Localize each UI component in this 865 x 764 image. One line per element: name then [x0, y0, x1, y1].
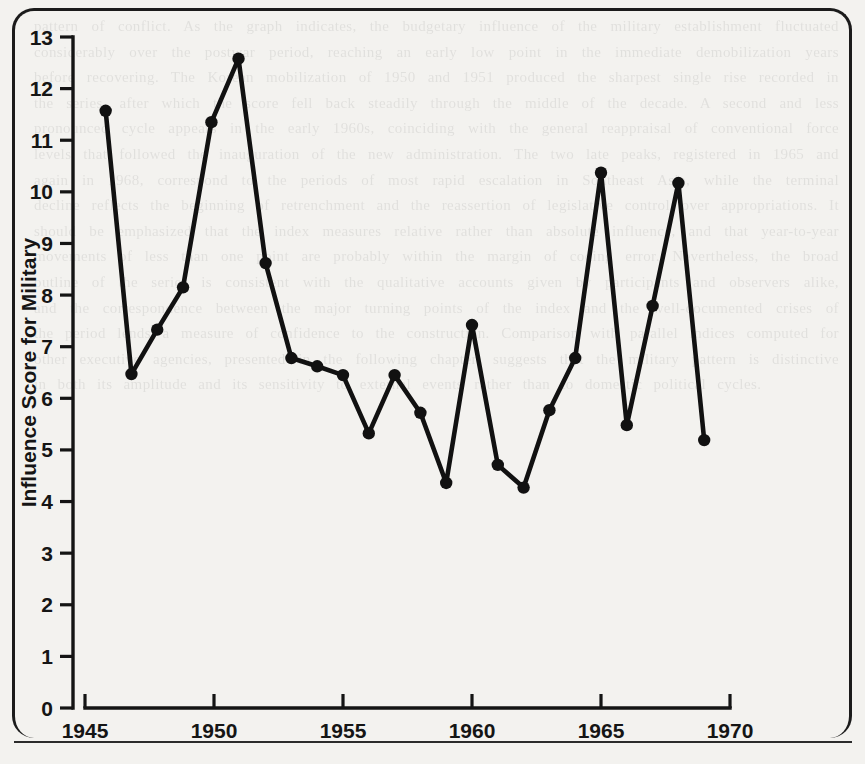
y-tick-label: 2 — [41, 593, 53, 616]
data-point-marker — [388, 369, 400, 381]
data-point-marker — [151, 323, 163, 335]
y-tick-label: 5 — [41, 438, 53, 461]
data-point-marker — [672, 177, 684, 189]
y-tick-label: 8 — [41, 284, 53, 307]
y-tick-label: 7 — [41, 335, 53, 358]
y-tick-label: 4 — [41, 490, 53, 513]
data-point-marker — [440, 477, 452, 489]
line-chart: 012345678910111213 194519501955196019651… — [0, 0, 865, 764]
data-point-marker — [205, 116, 217, 128]
x-tick-label: 1955 — [320, 719, 367, 742]
data-point-marker — [125, 368, 137, 380]
data-series-influence-score — [99, 52, 710, 493]
data-point-marker — [646, 300, 658, 312]
y-tick-label: 12 — [30, 77, 53, 100]
data-point-marker — [466, 319, 478, 331]
y-axis-title: Influence Score for Military — [17, 237, 40, 507]
data-point-marker — [414, 407, 426, 419]
data-point-marker — [363, 427, 375, 439]
x-tick-label: 1960 — [449, 719, 496, 742]
y-tick-label: 9 — [41, 232, 53, 255]
y-tick-label: 11 — [31, 129, 54, 152]
data-point-marker — [337, 369, 349, 381]
data-point-marker — [621, 419, 633, 431]
y-tick-label: 10 — [30, 180, 53, 203]
data-point-marker — [569, 352, 581, 364]
x-tick-label: 1950 — [191, 719, 238, 742]
x-tick-label: 1945 — [62, 719, 109, 742]
data-point-marker — [311, 360, 323, 372]
y-tick-label: 3 — [41, 542, 53, 565]
x-tick-label: 1970 — [707, 719, 754, 742]
y-tick-label: 13 — [30, 26, 53, 49]
data-point-marker — [232, 52, 244, 64]
x-axis: 194519501955196019651970 — [62, 694, 754, 742]
data-point-marker — [595, 167, 607, 179]
data-point-marker — [177, 281, 189, 293]
scanned-page: pattern of conflict. As the graph indica… — [0, 0, 865, 764]
data-point-marker — [543, 404, 555, 416]
data-point-marker — [698, 434, 710, 446]
data-point-marker — [285, 352, 297, 364]
x-tick-label: 1965 — [578, 719, 625, 742]
data-point-marker — [259, 257, 271, 269]
y-tick-label: 0 — [41, 697, 53, 720]
data-point-marker — [517, 481, 529, 493]
y-tick-label: 1 — [41, 645, 53, 668]
y-tick-label: 6 — [41, 387, 53, 410]
data-point-marker — [99, 105, 111, 117]
data-point-marker — [492, 459, 504, 471]
